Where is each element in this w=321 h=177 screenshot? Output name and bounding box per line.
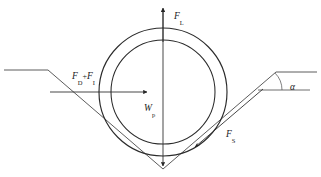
drag-force-symbol: F xyxy=(72,71,78,81)
inertia-force-symbol: F xyxy=(87,71,93,81)
inertia-force-subscript: I xyxy=(93,79,95,86)
diagram-canvas xyxy=(0,0,321,177)
trench-ground-profile xyxy=(4,70,317,169)
alpha-arc xyxy=(275,73,282,90)
lift-force-subscript: L xyxy=(180,19,184,26)
drag-force-subscript: D xyxy=(78,79,83,86)
angle-alpha-marker xyxy=(258,73,310,90)
label-lift-force: FL xyxy=(174,6,184,25)
right-trench-slope-line xyxy=(163,72,276,169)
label-soil-resistance-force: FS xyxy=(226,124,235,143)
label-drag-plus-inertia-force: FD+FI xyxy=(72,66,95,85)
label-slope-angle-alpha: α xyxy=(290,83,295,93)
lift-force-symbol: F xyxy=(174,11,180,21)
weight-symbol: W xyxy=(144,103,152,113)
weight-subscript: p xyxy=(152,111,155,118)
engineering-diagram-figure: FL FD+FI Wp FS α xyxy=(0,0,321,177)
soil-force-subscript: S xyxy=(232,137,236,144)
label-pipe-weight: Wp xyxy=(144,98,155,117)
soil-force-symbol: F xyxy=(226,129,232,139)
